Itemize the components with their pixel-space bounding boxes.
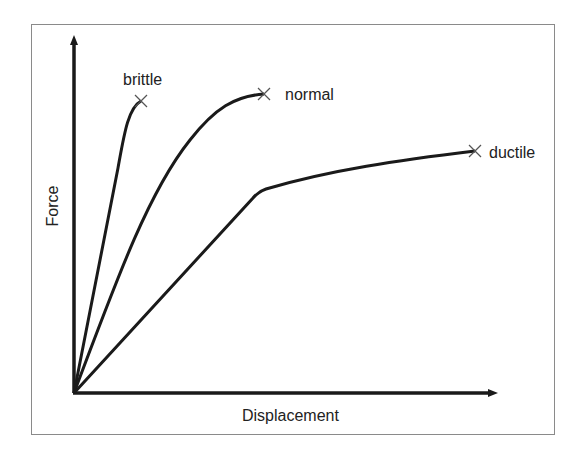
label-normal: normal: [285, 86, 334, 103]
x-axis-label: Displacement: [242, 407, 339, 424]
label-ductile: ductile: [489, 144, 535, 161]
y-axis-label: Force: [44, 185, 61, 226]
label-brittle: brittle: [123, 71, 162, 88]
force-displacement-diagram: brittle normal ductile Displacement Forc…: [0, 0, 579, 455]
